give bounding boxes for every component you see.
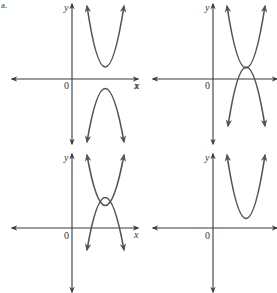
parabola-up [87,6,124,67]
parabola-up [227,155,265,219]
graphs-figure: y x 0 y x 0 y x 0 y 0 [0,0,277,293]
parabola-up [227,6,265,68]
parabola-down [228,67,265,126]
y-axis-label: y [204,152,210,163]
origin-label: 0 [64,80,69,91]
panel-top-right: y x 0 [134,2,277,144]
y-axis-label: y [63,152,69,163]
y-axis-label: y [204,2,210,13]
parabola-down [87,89,124,143]
panel-bottom-left: y x 0 [12,152,139,292]
panel-bottom-right: y 0 [153,152,277,292]
origin-label: 0 [64,230,69,241]
origin-label: 0 [205,80,210,91]
panel-top-left: y x 0 [12,2,139,144]
x-axis-label-left-edge: x [134,80,140,91]
x-axis-label: x [133,229,139,240]
y-axis-label: y [63,2,69,13]
origin-label: 0 [205,230,210,241]
